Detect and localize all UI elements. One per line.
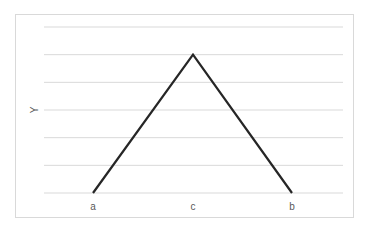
- x-axis-labels: a c b: [90, 201, 295, 212]
- x-label-b: b: [289, 201, 295, 212]
- line-chart: a c b Y: [0, 0, 366, 235]
- series-line-y: [93, 55, 292, 193]
- gridlines: [44, 27, 343, 193]
- y-axis-title: Y: [29, 106, 40, 113]
- x-label-c: c: [191, 201, 196, 212]
- x-label-a: a: [90, 201, 96, 212]
